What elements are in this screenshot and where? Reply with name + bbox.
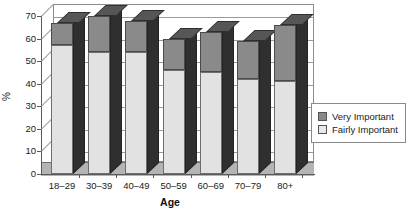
y-axis-tick-label: 70 — [10, 11, 36, 21]
legend-swatch-fairly-important-icon — [318, 125, 327, 134]
bar-side-face — [222, 21, 234, 174]
bar-side-face — [259, 30, 271, 174]
y-axis-tick-label: 20 — [10, 124, 36, 134]
bar-series-group — [41, 0, 315, 176]
x-axis-tick-mark — [228, 174, 229, 178]
y-axis-tick-label: 40 — [10, 79, 36, 89]
chart-container: 010203040506070 % 18–2930–3940–4950–5960… — [0, 0, 419, 218]
bar-column — [237, 41, 259, 174]
legend-label-fairly-important: Fairly Important — [332, 124, 398, 135]
y-axis-tick-label: 0 — [10, 169, 36, 179]
bar-top-cap — [243, 30, 277, 41]
x-axis-title: Age — [0, 196, 340, 208]
chart-legend: Very Important Fairly Important — [311, 103, 406, 143]
bar-column — [274, 25, 296, 174]
x-axis-tick-label: 60–69 — [198, 180, 224, 191]
x-axis-tick-mark — [265, 174, 266, 178]
bar-top-cap — [131, 10, 165, 21]
x-axis-tick-label: 30–39 — [86, 180, 112, 191]
x-axis-tick-label: 18–29 — [49, 180, 75, 191]
bar-top-cap — [280, 14, 314, 25]
y-axis-tick-label: 10 — [10, 147, 36, 157]
x-axis-tick-mark — [191, 174, 192, 178]
bar-side-face — [73, 12, 85, 174]
x-axis-tick-mark — [302, 174, 303, 178]
bar-segment-fairly-important — [163, 70, 185, 174]
x-axis-tick-label: 40–49 — [123, 180, 149, 191]
bar-column — [51, 23, 73, 174]
bar-segment-fairly-important — [125, 52, 147, 174]
bar-segment-very-important — [125, 21, 147, 53]
y-axis-title: % — [2, 86, 11, 104]
bar-column — [125, 21, 147, 174]
x-axis-tick-mark — [116, 174, 117, 178]
y-axis-title-text: % — [1, 92, 12, 101]
legend-label-very-important: Very Important — [332, 111, 394, 122]
bar-segment-fairly-important — [88, 52, 110, 174]
bar-top-cap — [57, 12, 91, 23]
x-axis-tick-mark — [79, 174, 80, 178]
y-axis-tick-label: 30 — [10, 102, 36, 112]
y-axis-tick-label: 50 — [10, 56, 36, 66]
bar-side-face — [185, 27, 197, 174]
legend-item-very-important: Very Important — [318, 111, 398, 122]
bar-segment-fairly-important — [51, 45, 73, 174]
x-axis-line — [41, 174, 315, 175]
x-axis-tick-mark — [153, 174, 154, 178]
x-axis-tick-label: 70–79 — [235, 180, 261, 191]
bar-segment-very-important — [163, 39, 185, 71]
bar-side-face — [147, 9, 159, 174]
bar-segment-fairly-important — [237, 79, 259, 174]
bar-side-face — [296, 14, 308, 174]
bar-segment-fairly-important — [200, 72, 222, 174]
bar-column — [163, 39, 185, 174]
legend-item-fairly-important: Fairly Important — [318, 124, 398, 135]
bar-segment-very-important — [51, 23, 73, 46]
bar-segment-fairly-important — [274, 81, 296, 174]
x-axis-tick-label: 50–59 — [160, 180, 186, 191]
bar-column — [200, 32, 222, 174]
bar-top-cap — [94, 5, 128, 16]
x-axis-tick-labels: 18–2930–3940–4950–5960–6970–7980+ — [41, 180, 321, 194]
legend-swatch-very-important-icon — [318, 112, 327, 121]
bar-top-cap — [169, 28, 203, 39]
x-axis-tick-label: 80+ — [277, 180, 293, 191]
bar-side-face — [110, 5, 122, 174]
bar-segment-very-important — [274, 25, 296, 81]
bar-column — [88, 16, 110, 174]
bar-top-cap — [206, 21, 240, 32]
bar-segment-very-important — [200, 32, 222, 73]
bar-segment-very-important — [237, 41, 259, 79]
bar-segment-very-important — [88, 16, 110, 52]
y-axis-tick-label: 60 — [10, 34, 36, 44]
